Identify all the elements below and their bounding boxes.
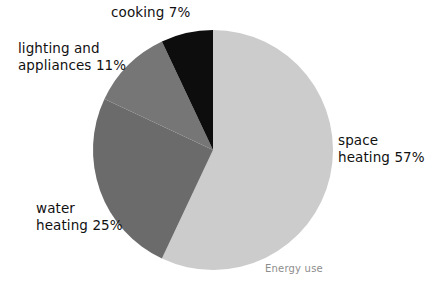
pie-label-water-line-2: heating 25%: [36, 217, 123, 234]
pie-chart-figure: cooking 7% lighting and appliances 11% w…: [0, 0, 435, 300]
pie-label-space-line-2: heating 57%: [338, 149, 425, 166]
chart-caption: Energy use: [265, 263, 323, 275]
pie-label-lighting-line-1: lighting and: [18, 40, 126, 57]
pie-label-space-line-1: space: [338, 132, 425, 149]
pie-label-space-heating: space heating 57%: [338, 132, 425, 165]
pie-slices: [93, 30, 333, 270]
pie-label-water-line-1: water: [36, 200, 123, 217]
pie-label-lighting-and-appliances: lighting and appliances 11%: [18, 40, 126, 73]
pie-label-lighting-line-2: appliances 11%: [18, 57, 126, 74]
pie-label-cooking-line-1: cooking 7%: [111, 4, 190, 21]
pie-label-cooking: cooking 7%: [111, 4, 190, 21]
pie-label-water-heating: water heating 25%: [36, 200, 123, 233]
